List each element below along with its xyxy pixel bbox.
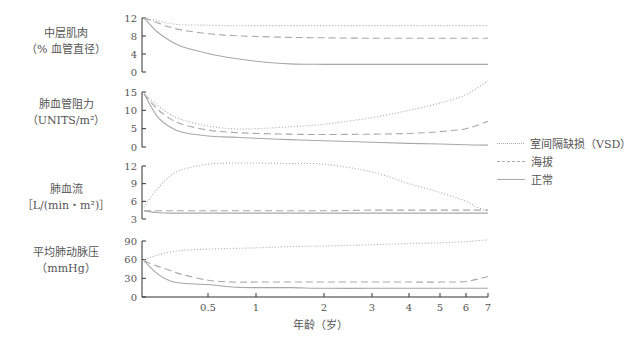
y-tick-label: 30 — [124, 273, 137, 284]
y-tick-label: 12 — [124, 13, 137, 24]
panel-2: 051015 — [124, 81, 488, 153]
legend-label-vsd: 室间隔缺损（VSD） — [530, 135, 628, 151]
x-tick-label: 0.5 — [200, 302, 216, 313]
panel-3-ylabel-title: 肺血流 — [6, 182, 126, 198]
panel-1-ylabel-title: 中层肌肉 — [6, 26, 126, 42]
legend-item-altitude: 海拔 — [497, 152, 628, 170]
panel-1-ylabel-unit: （% 血管直径） — [6, 42, 126, 58]
series-dashed-line — [144, 261, 488, 282]
panel-2-ylabel: 肺血管阻力 （UNITS/m²） — [6, 97, 126, 129]
legend-label-normal: 正常 — [531, 171, 553, 187]
series-dashed-line — [144, 18, 488, 38]
legend-label-altitude: 海拔 — [531, 153, 553, 169]
series-solid-line — [144, 94, 488, 145]
y-tick-label: 0 — [131, 142, 137, 153]
x-tick-label: 6 — [463, 302, 469, 313]
panel-2-ylabel-unit: （UNITS/m²） — [6, 113, 126, 129]
series-dotted-line — [144, 18, 488, 26]
x-tick-label: 4 — [406, 302, 412, 313]
dashed-line-icon — [497, 161, 525, 162]
y-tick-label: 3 — [131, 214, 137, 225]
panel-1-ylabel: 中层肌肉 （% 血管直径） — [6, 26, 126, 58]
x-tick-label: 7 — [485, 302, 491, 313]
y-tick-label: 5 — [131, 123, 137, 134]
panel-4-ylabel-title: 平均肺动脉压 — [6, 245, 126, 261]
x-axis-label: 年龄（岁） — [270, 316, 370, 332]
panel-3-ylabel: 肺血流 ［L/(min・m²)］ — [6, 182, 126, 214]
panel-4-ylabel-unit: （mmHg） — [6, 261, 126, 277]
series-dotted-line — [144, 240, 488, 260]
series-dashed-line — [144, 210, 488, 211]
legend-item-normal: 正常 — [497, 170, 628, 188]
y-tick-label: 10 — [124, 105, 137, 116]
y-tick-label: 90 — [124, 236, 137, 247]
y-tick-label: 15 — [124, 87, 137, 98]
solid-line-icon — [497, 179, 525, 180]
x-tick-label: 2 — [321, 302, 327, 313]
y-tick-label: 60 — [124, 254, 137, 265]
panel-3-ylabel-unit: ［L/(min・m²)］ — [6, 198, 126, 214]
x-tick-label: 1 — [253, 302, 259, 313]
panel-1: 04812 — [124, 13, 488, 78]
y-tick-label: 0 — [131, 67, 137, 78]
panel-4-ylabel: 平均肺动脉压 （mmHg） — [6, 245, 126, 277]
y-tick-label: 12 — [124, 161, 137, 172]
y-tick-label: 9 — [131, 178, 137, 189]
series-dotted-line — [144, 163, 488, 211]
panel-3: 36912 — [124, 161, 488, 225]
x-tick-label: 3 — [369, 302, 375, 313]
y-tick-label: 8 — [131, 31, 137, 42]
series-solid-line — [144, 261, 488, 288]
dotted-line-icon — [497, 143, 524, 144]
legend-item-vsd: 室间隔缺损（VSD） — [497, 134, 628, 152]
series-dotted-line — [144, 81, 488, 129]
y-tick-label: 0 — [131, 292, 137, 303]
series-dashed-line — [144, 94, 488, 135]
series-solid-line — [144, 18, 488, 64]
y-tick-label: 4 — [131, 49, 137, 60]
panel-2-ylabel-title: 肺血管阻力 — [6, 97, 126, 113]
series-solid-line — [144, 211, 488, 213]
y-tick-label: 6 — [131, 196, 137, 207]
x-tick-label: 5 — [437, 302, 443, 313]
panel-4: 03060900.51234567 — [124, 236, 491, 314]
legend: 室间隔缺损（VSD） 海拔 正常 — [497, 134, 628, 188]
